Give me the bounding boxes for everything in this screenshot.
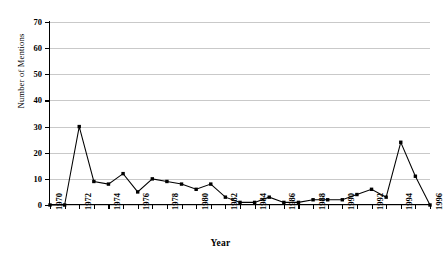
data-point-1982	[224, 195, 227, 198]
data-point-1996	[428, 203, 431, 206]
data-point-1981	[209, 182, 212, 185]
data-point-1974	[107, 182, 110, 185]
data-point-1971	[63, 203, 66, 206]
data-point-1995	[414, 175, 417, 178]
data-point-1983	[238, 201, 241, 204]
data-point-1973	[92, 180, 95, 183]
data-point-1970	[48, 203, 51, 206]
data-point-1979	[180, 182, 183, 185]
data-point-1992	[370, 188, 373, 191]
data-point-1977	[151, 177, 154, 180]
x-axis-title: Year	[0, 238, 441, 248]
data-point-1990	[341, 198, 344, 201]
data-point-1994	[399, 141, 402, 144]
series-line	[50, 127, 430, 205]
data-point-1978	[165, 180, 168, 183]
data-point-1986	[282, 201, 285, 204]
data-point-1989	[326, 198, 329, 201]
data-point-1975	[121, 172, 124, 175]
data-point-1972	[78, 125, 81, 128]
data-point-1993	[384, 195, 387, 198]
data-point-1976	[136, 190, 139, 193]
data-point-1980	[194, 188, 197, 191]
data-point-markers	[48, 125, 431, 207]
data-point-1985	[268, 195, 271, 198]
data-point-1987	[297, 201, 300, 204]
data-point-1988	[311, 198, 314, 201]
data-point-1991	[355, 193, 358, 196]
data-point-1984	[253, 201, 256, 204]
